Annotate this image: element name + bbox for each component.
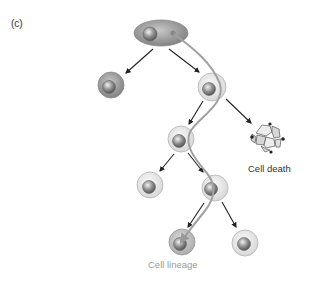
apoptotic-cell [250, 122, 285, 153]
cell-lineage-diagram [0, 0, 315, 281]
cell-lineage-label: Cell lineage [148, 259, 198, 270]
cell-gen4-right [202, 175, 228, 201]
cell-gen2-right [198, 73, 226, 101]
cell-gen5-right [232, 230, 258, 256]
cell-gen4-left [137, 172, 163, 198]
cell-death-label: Cell death [248, 163, 291, 174]
root-cell [134, 20, 188, 46]
cell-gen2-left [98, 72, 124, 98]
